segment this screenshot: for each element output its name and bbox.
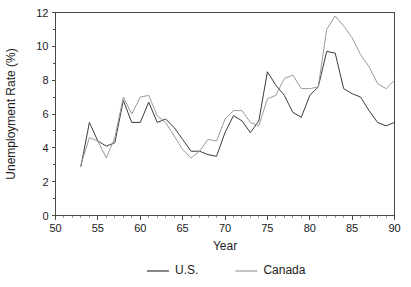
x-tick-label: 85 <box>346 222 358 234</box>
y-tick-label: 2 <box>42 176 48 188</box>
series-line-us <box>81 51 395 166</box>
y-tick-label: 0 <box>42 210 48 222</box>
y-tick-label: 4 <box>42 142 48 154</box>
y-tick-label: 12 <box>36 7 48 19</box>
x-tick-label: 75 <box>261 222 273 234</box>
x-tick-label: 50 <box>49 222 61 234</box>
x-tick-label: 55 <box>92 222 104 234</box>
x-tick-label: 60 <box>134 222 146 234</box>
y-tick-label: 10 <box>36 40 48 52</box>
unemployment-line-chart: 024681012505560657075808590Unemployment … <box>0 0 411 287</box>
y-tick-label: 6 <box>42 108 48 120</box>
chart-figure: 024681012505560657075808590Unemployment … <box>0 0 411 287</box>
legend-label-us: U.S. <box>175 263 198 277</box>
series-line-canada <box>81 16 395 165</box>
plot-frame <box>56 13 395 216</box>
x-tick-label: 90 <box>388 222 400 234</box>
series-group <box>81 16 395 167</box>
legend-label-canada: Canada <box>263 263 305 277</box>
axis-group <box>52 13 395 220</box>
x-tick-label: 65 <box>177 222 189 234</box>
y-axis-title: Unemployment Rate (%) <box>4 48 18 179</box>
x-tick-label: 80 <box>304 222 316 234</box>
x-axis-title: Year <box>213 239 237 253</box>
chart-legend: U.S.Canada <box>147 263 306 277</box>
x-tick-label: 70 <box>219 222 231 234</box>
y-tick-label: 8 <box>42 74 48 86</box>
